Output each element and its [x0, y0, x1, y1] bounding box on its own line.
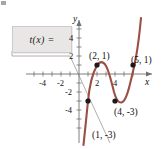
figure-container: t(x) = y x -4 -2 2 4 4 2 -2 -4 (2, 1) (5… [0, 0, 162, 149]
y-tick-label-2: 2 [69, 52, 73, 61]
data-point-1-neg3 [85, 98, 90, 103]
data-point-4-neg3 [112, 98, 117, 103]
y-tick-label-neg4: -4 [65, 106, 72, 115]
x-tick-label-neg2: -2 [57, 79, 64, 88]
data-point-2-1 [94, 62, 99, 67]
x-tick-label-2: 2 [95, 79, 99, 88]
point-label-5-1: (5, 1) [131, 56, 152, 66]
function-callout-box[interactable]: t(x) = [12, 26, 72, 53]
x-axis-arrow [146, 71, 152, 76]
x-tick-label-4: 4 [113, 79, 117, 88]
y-tick-label-4: 4 [69, 34, 73, 43]
function-callout-label: t(x) = [30, 34, 55, 45]
x-tick-label-neg4: -4 [39, 79, 46, 88]
x-axis-label: x [145, 78, 149, 88]
point-label-1-neg3: (1, -3) [92, 131, 116, 141]
point-label-2-1: (2, 1) [89, 52, 110, 62]
graph-canvas [0, 0, 162, 149]
point-label-4-neg3: (4, -3) [114, 108, 138, 118]
y-tick-label-neg2: -2 [65, 88, 72, 97]
y-axis-label: y [73, 15, 77, 25]
